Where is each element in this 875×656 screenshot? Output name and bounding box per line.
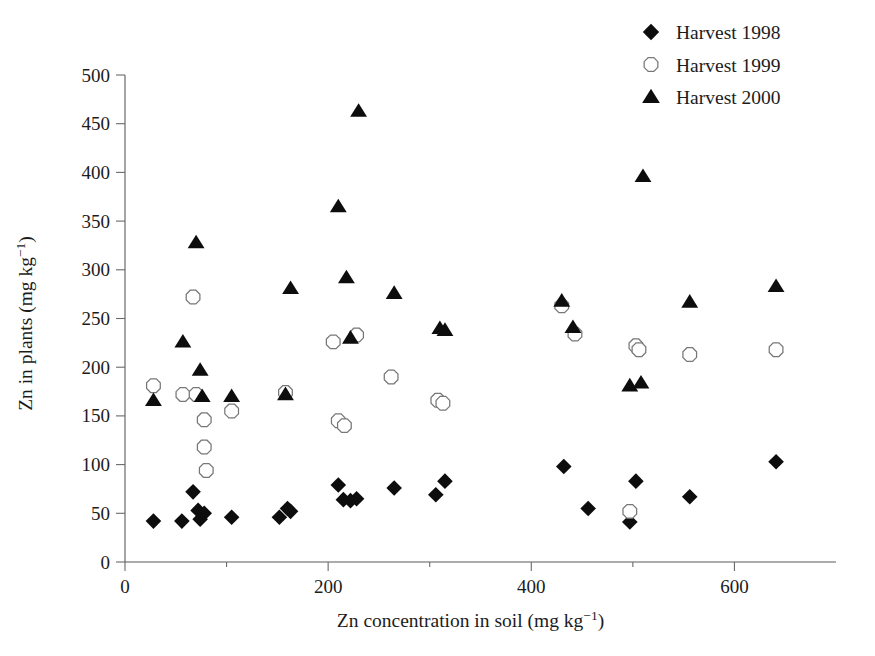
data-point (769, 343, 783, 357)
data-point (565, 319, 582, 333)
data-point (338, 419, 352, 433)
chart-figure: 0501001502002503003504004505000200400600… (0, 0, 875, 656)
data-point (436, 396, 450, 410)
y-tick-label: 300 (82, 259, 111, 280)
data-point (635, 168, 652, 182)
data-point (384, 370, 398, 384)
data-point (350, 103, 367, 117)
x-axis-title: Zn concentration in soil (mg kg−1) (337, 608, 604, 632)
data-point (147, 379, 161, 393)
data-point (197, 440, 211, 454)
data-point (146, 513, 162, 529)
data-point (199, 464, 213, 478)
data-point (338, 270, 355, 284)
y-tick-label: 200 (82, 357, 111, 378)
legend-label: Harvest 1998 (676, 22, 781, 43)
data-point (145, 392, 162, 406)
data-point (331, 477, 347, 493)
data-point (428, 487, 444, 503)
y-tick-label: 50 (91, 503, 110, 524)
data-point (186, 290, 200, 304)
data-point (197, 413, 211, 427)
data-point (683, 348, 697, 362)
data-point (174, 513, 190, 529)
data-point (188, 235, 205, 249)
data-point (386, 285, 403, 299)
data-point (326, 335, 340, 349)
data-point (681, 294, 698, 308)
x-tick-label: 0 (120, 576, 130, 597)
data-point (224, 509, 240, 525)
data-point (223, 389, 240, 403)
data-point (176, 388, 190, 402)
data-point (768, 454, 784, 470)
data-point (628, 473, 644, 489)
y-tick-label: 100 (82, 454, 111, 475)
legend-label: Harvest 2000 (676, 87, 781, 108)
data-point (192, 362, 209, 376)
data-point (185, 484, 201, 500)
data-point (580, 501, 596, 517)
y-tick-label: 400 (82, 162, 111, 183)
legend-label: Harvest 1999 (676, 55, 781, 76)
y-tick-label: 250 (82, 308, 111, 329)
data-point (282, 280, 299, 294)
y-tick-label: 150 (82, 405, 111, 426)
series-harvest-1999 (147, 290, 783, 518)
data-point (386, 480, 402, 496)
series-harvest-1998 (146, 454, 784, 530)
legend-marker-open-hexagon (644, 58, 658, 72)
y-tick-label: 500 (82, 65, 111, 86)
legend: Harvest 1998Harvest 1999Harvest 2000 (642, 22, 780, 108)
data-point (633, 375, 650, 389)
y-axis-title: Zn in plants (mg kg−1) (13, 236, 37, 411)
scatter-plot: 0501001502002503003504004505000200400600… (0, 0, 875, 656)
y-tick-label: 450 (82, 113, 111, 134)
legend-marker-filled-diamond (643, 24, 659, 40)
y-tick-label: 350 (82, 211, 111, 232)
data-point (768, 278, 785, 292)
data-point (437, 473, 453, 489)
x-tick-label: 200 (314, 576, 343, 597)
x-tick-label: 400 (517, 576, 546, 597)
data-point (225, 404, 239, 418)
x-tick-label: 600 (720, 576, 749, 597)
y-tick-label: 0 (101, 552, 111, 573)
data-point (556, 459, 572, 475)
data-point (174, 334, 191, 348)
data-point (682, 489, 698, 505)
legend-marker-filled-triangle (642, 89, 660, 103)
data-point (632, 343, 646, 357)
data-point (623, 505, 637, 519)
data-point (553, 293, 570, 307)
data-point (330, 199, 347, 213)
